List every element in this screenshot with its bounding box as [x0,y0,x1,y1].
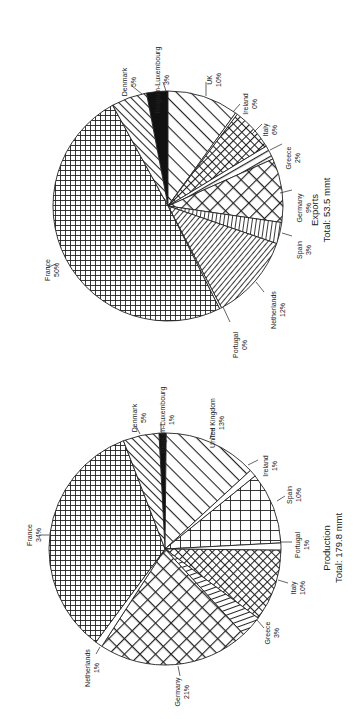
slice-percent: 10% [295,488,302,502]
production-leader-line-netherlands [96,647,100,654]
production-label-portugal: Portugal1% [294,532,310,559]
slice-percent: 5% [130,77,137,87]
production-label-ireland: Ireland1% [262,455,278,477]
slice-name: United Kingdom [209,398,217,448]
exports-leader-line-netherlands [256,282,264,292]
slice-name: France [26,524,33,546]
exports-leader-line-greece [270,144,282,150]
production-label-united-kingdom: United Kingdom13% [209,398,225,448]
slice-percent: 0% [251,99,258,109]
slice-name: Portugal [232,332,240,359]
slice-name: Italy [262,123,270,136]
production-total: Total: 179.8 mmt [333,513,344,584]
exports-leader-line-spain [282,233,292,236]
slice-percent: 10% [215,73,222,87]
production-pie-chart [49,433,281,665]
slice-name: Belgium-Luxembourg [154,47,162,114]
slice-percent: 1% [271,461,278,471]
production-leader-line-spain [277,496,285,501]
slice-percent: 2% [294,153,301,163]
exports-label-ireland: Ireland0% [242,93,258,115]
production-label-netherlands: Netherlands1% [84,649,100,687]
production-label-italy: Italy10% [290,581,306,595]
production-leader-line-ireland [248,460,258,465]
production-label-denmark: Denmark5% [131,403,147,432]
slice-percent: 1% [168,415,175,425]
exports-leader-line-portugal [223,307,230,322]
slice-name: Belgium-Luxembourg [159,387,167,454]
slice-percent: 5% [140,413,147,423]
exports-label-netherlands: Netherlands12% [270,291,286,329]
slice-name: Germany [174,677,182,706]
slice-name: Greece [264,621,271,644]
slice-percent: 13% [218,416,225,430]
production-leader-line-germany [178,666,180,676]
slice-name: Spain [286,486,294,504]
exports-label-portugal: Portugal0% [232,332,248,359]
exports-label-uk: UK10% [206,73,222,87]
slice-name: Spain [296,241,304,259]
production-label-germany: Germany21% [174,677,190,706]
production-label-greece: Greece3% [264,621,280,644]
slice-percent: 0% [241,340,248,350]
slice-name: Ireland [242,93,249,115]
production-leader-line-italy [278,580,288,583]
slice-percent: 3% [163,75,170,85]
slice-name: France [44,259,51,281]
slice-name: UK [206,75,213,85]
exports-label-greece: Greece2% [285,146,301,169]
production-title-block: Production Total: 179.8 mmt [321,513,344,584]
exports-leader-line-ireland [233,104,240,112]
slice-name: Denmark [131,403,138,432]
slice-name: Germany [296,193,304,222]
slice-name: Ireland [262,455,269,477]
slice-name: Denmark [121,67,128,96]
exports-label-italy: Italy6% [262,123,278,136]
exports-label-denmark: Denmark5% [121,67,137,96]
production-label-spain: Spain10% [286,486,302,504]
slice-name: Netherlands [84,649,91,687]
slice-percent: 1% [93,663,100,673]
pie-charts-figure: Belgium-Luxembourg3%Denmark5%UK10%Irelan… [0,0,358,719]
slice-percent: 1% [303,540,310,550]
slice-name: Netherlands [270,291,277,329]
slice-percent: 34% [35,528,42,542]
exports-title-block: Exports Total: 53.5 mmt [309,177,332,242]
slice-percent: 6% [271,125,278,135]
production-title: Production [321,525,332,570]
exports-total: Total: 53.5 mmt [321,177,332,242]
exports-label-france: France50% [44,259,60,281]
slice-name: Portugal [294,532,302,559]
slice-percent: 3% [273,628,280,638]
production-leader-line-greece [257,620,264,628]
exports-label-spain: Spain3% [296,241,312,259]
slice-percent: 12% [279,303,286,317]
slice-percent: 3% [305,245,312,255]
slice-percent: 21% [183,685,190,699]
slice-name: Italy [290,581,298,594]
exports-title: Exports [309,194,320,226]
slice-name: Greece [285,146,292,169]
slice-percent: 50% [53,263,60,277]
exports-pie-chart [53,91,283,321]
slice-percent: 10% [299,581,306,595]
production-label-france: France34% [26,524,42,546]
